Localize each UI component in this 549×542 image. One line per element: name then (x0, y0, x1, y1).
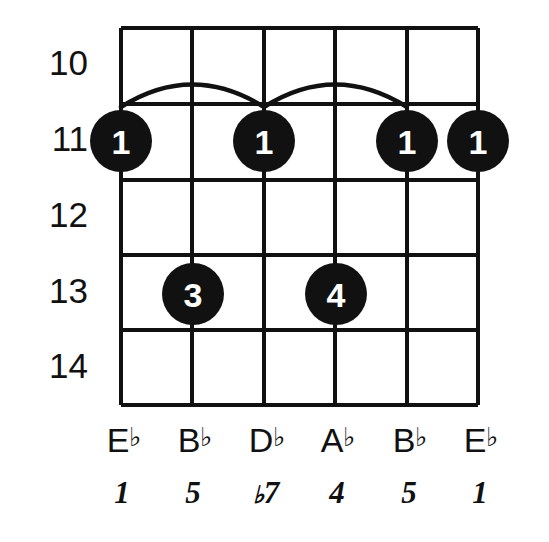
fret-number-13: 13 (49, 271, 88, 310)
finger-dots-group: 1 1 1 1 3 4 (90, 110, 509, 325)
finger-dot-label: 1 (112, 123, 131, 161)
fret-number-12: 12 (49, 195, 88, 234)
note-name-string-6: E♭ (464, 421, 499, 459)
fret-number-11: 11 (52, 119, 88, 158)
fret-number-10: 10 (49, 43, 88, 82)
interval-string-3: ♭7 (253, 475, 281, 510)
chord-diagram: 10 11 12 13 14 (0, 0, 549, 542)
finger-dot-string3-fret11[interactable]: 1 (233, 110, 295, 172)
finger-dot-string2-fret13[interactable]: 3 (162, 263, 224, 325)
note-letter: B (178, 421, 201, 459)
flat-icon: ♭ (486, 422, 498, 452)
note-letter: B (393, 421, 416, 459)
note-letter: D (249, 421, 274, 459)
interval-degree: 5 (401, 475, 417, 510)
flat-icon: ♭ (415, 422, 427, 452)
note-letter: A (321, 421, 344, 459)
finger-dot-label: 4 (327, 276, 346, 314)
finger-dot-label: 3 (184, 276, 203, 314)
note-letter: E (464, 421, 487, 459)
interval-degree: 1 (114, 475, 130, 510)
fret-number-14: 14 (49, 346, 88, 385)
note-names-row: E♭ B♭ D♭ A♭ B♭ E♭ (107, 421, 499, 459)
flat-icon: ♭ (200, 422, 212, 452)
flat-icon: ♭ (273, 422, 285, 452)
interval-string-4: 4 (328, 475, 345, 510)
note-name-string-2: B♭ (178, 421, 213, 459)
note-name-string-5: B♭ (393, 421, 428, 459)
finger-dot-string6-fret11[interactable]: 1 (447, 110, 509, 172)
finger-dot-string4-fret13[interactable]: 4 (305, 263, 367, 325)
chord-diagram-canvas: 10 11 12 13 14 (0, 0, 549, 542)
flat-icon: ♭ (343, 422, 355, 452)
note-name-string-1: E♭ (107, 421, 142, 459)
finger-dot-string1-fret11[interactable]: 1 (90, 110, 152, 172)
fret-number-column: 10 11 12 13 14 (49, 43, 88, 385)
interval-string-5: 5 (401, 475, 417, 510)
interval-degree: 1 (472, 475, 488, 510)
interval-string-1: 1 (114, 475, 130, 510)
interval-string-2: 5 (185, 475, 201, 510)
note-letter: E (107, 421, 130, 459)
intervals-row: 1 5 ♭7 4 5 1 (114, 475, 488, 510)
note-name-string-4: A♭ (321, 421, 356, 459)
note-name-string-3: D♭ (249, 421, 286, 459)
interval-degree: 5 (185, 475, 201, 510)
flat-icon: ♭ (129, 422, 141, 452)
finger-dot-label: 1 (469, 123, 488, 161)
interval-string-6: 1 (472, 475, 488, 510)
interval-degree: 4 (328, 475, 345, 510)
finger-dot-label: 1 (255, 123, 274, 161)
finger-dot-string5-fret11[interactable]: 1 (376, 110, 438, 172)
finger-dot-label: 1 (398, 123, 417, 161)
interval-degree: 7 (264, 475, 281, 510)
